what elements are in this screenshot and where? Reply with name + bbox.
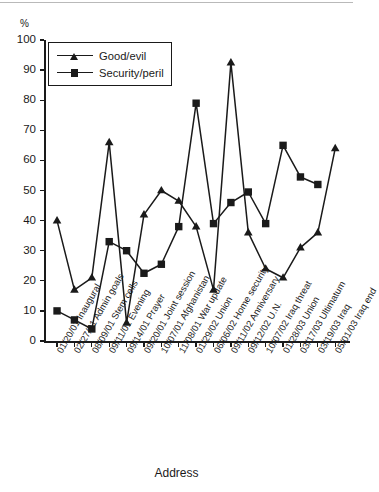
data-point-marker-triangle	[331, 144, 340, 151]
data-point-marker-square	[314, 181, 321, 188]
series-line-security-peril	[57, 103, 318, 329]
data-point-marker-triangle	[53, 216, 62, 223]
data-point-marker-square	[297, 173, 304, 180]
data-point-marker-square	[158, 261, 165, 268]
data-point-marker-square	[106, 238, 113, 245]
data-point-marker-triangle	[314, 228, 323, 235]
data-point-marker-square	[88, 325, 95, 332]
data-point-marker-square	[227, 199, 234, 206]
triangle-marker-icon	[57, 50, 93, 62]
data-point-marker-triangle	[157, 186, 166, 193]
legend-label-security-peril: Security/peril	[99, 67, 164, 79]
x-axis-title: Address	[0, 466, 353, 480]
chart-legend: Good/evil Security/peril	[48, 42, 172, 86]
data-point-marker-triangle	[88, 273, 97, 280]
data-point-marker-square	[245, 188, 252, 195]
data-point-marker-square	[192, 100, 199, 107]
data-point-marker-square	[279, 142, 286, 149]
data-point-marker-triangle	[261, 264, 270, 271]
data-point-marker-triangle	[105, 138, 114, 145]
data-point-marker-square	[175, 223, 182, 230]
square-marker-icon	[57, 67, 93, 79]
data-point-marker-square	[71, 316, 78, 323]
legend-entry-security-peril: Security/peril	[49, 64, 171, 81]
data-point-marker-square	[53, 307, 60, 314]
data-point-marker-triangle	[122, 318, 131, 325]
data-point-marker-triangle	[209, 285, 218, 292]
data-point-marker-square	[210, 220, 217, 227]
data-point-marker-square	[140, 270, 147, 277]
data-point-marker-triangle	[227, 58, 236, 65]
legend-entry-good-evil: Good/evil	[49, 47, 171, 64]
legend-label-good-evil: Good/evil	[99, 50, 146, 62]
data-point-marker-square	[123, 247, 130, 254]
data-point-marker-triangle	[244, 228, 253, 235]
data-point-marker-triangle	[70, 285, 79, 292]
data-point-marker-square	[262, 220, 269, 227]
